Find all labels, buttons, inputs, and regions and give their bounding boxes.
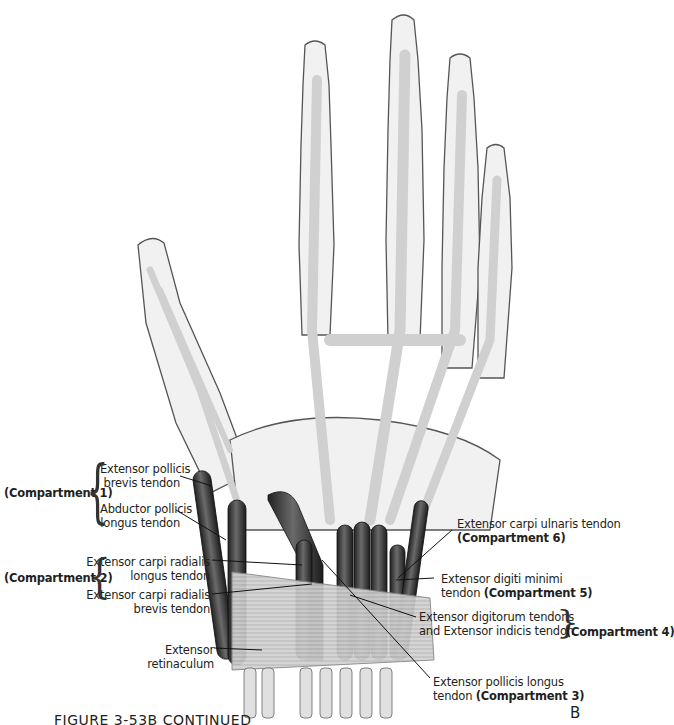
label-line: Extensor digitorum tendons bbox=[419, 610, 574, 624]
label-line: brevis tendon bbox=[80, 602, 210, 616]
label-line: Extensor carpi ulnaris tendon bbox=[457, 517, 621, 531]
figure-caption: FIGURE 3-53B CONTINUED bbox=[54, 712, 251, 725]
label-extensor-pollicis-longus: Extensor pollicis longus tendon (Compart… bbox=[433, 675, 584, 703]
compartment-6-label: (Compartment 6) bbox=[457, 531, 565, 545]
label-abductor-pollicis-longus: Abductor pollicis longus tendon bbox=[100, 502, 180, 530]
compartment-5-label: (Compartment 5) bbox=[484, 586, 592, 600]
compartment-4-label: (Compartment 4) bbox=[566, 625, 674, 639]
compartment-3-label: (Compartment 3) bbox=[476, 689, 584, 703]
label-line: Extensor pollicis longus bbox=[433, 675, 584, 689]
forearm-tendons bbox=[244, 668, 392, 718]
label-line: Extensor bbox=[130, 643, 214, 657]
label-line: retinaculum bbox=[130, 657, 214, 671]
brace-icon: { bbox=[88, 553, 111, 600]
label-line: Extensor pollicis bbox=[100, 462, 180, 476]
label-line: tendon bbox=[433, 689, 476, 703]
label-line: Abductor pollicis bbox=[100, 502, 180, 516]
panel-letter: B bbox=[570, 704, 580, 722]
label-extensor-digiti-minimi: Extensor digiti minimi tendon (Compartme… bbox=[441, 572, 592, 600]
brace-icon: { bbox=[86, 458, 109, 526]
label-extensor-retinaculum: Extensor retinaculum bbox=[130, 643, 214, 671]
label-line: and Extensor indicis tendon bbox=[419, 624, 574, 638]
label-line: Extensor digiti minimi bbox=[441, 572, 592, 586]
label-extensor-digitorum: Extensor digitorum tendons and Extensor … bbox=[419, 610, 574, 638]
label-extensor-carpi-ulnaris: Extensor carpi ulnaris tendon (Compartme… bbox=[457, 517, 621, 545]
label-line: longus tendon bbox=[100, 516, 180, 530]
label-line: tendon bbox=[441, 586, 484, 600]
